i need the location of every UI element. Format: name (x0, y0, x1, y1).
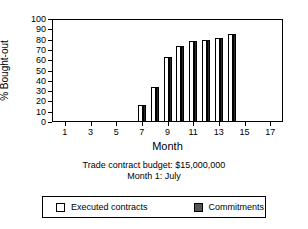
y-axis-tick-label: 20 (36, 97, 46, 106)
chart-figure: % Bought-out 0102030405060708090100 1357… (0, 0, 308, 229)
y-axis-tick-label: 40 (36, 76, 46, 85)
bar-group (202, 18, 212, 121)
bar-series-container (53, 20, 282, 121)
x-axis-tick-mark (116, 122, 117, 126)
bar-group (228, 18, 238, 121)
x-axis-tick-mark (193, 122, 194, 126)
bar-group (151, 18, 161, 121)
x-axis-tick-label: 7 (139, 127, 144, 137)
bar-commitments (233, 34, 236, 121)
x-axis-title: Month (52, 140, 283, 153)
chart-caption: Trade contract budget: $15,000,000 Month… (10, 160, 298, 182)
y-axis-tick-label: 100 (31, 15, 46, 24)
bar-commitments (156, 87, 159, 121)
x-axis-tick-label: 9 (165, 127, 170, 137)
legend-item-executed-contracts: Executed contracts (56, 202, 148, 212)
y-axis-tick-label: 30 (36, 87, 46, 96)
legend-label-commitments: Commitments (209, 202, 265, 212)
x-axis-tick-mark (245, 122, 246, 126)
x-axis-tick-mark (142, 122, 143, 126)
bar-group (215, 18, 225, 121)
y-axis-tick-label: 90 (36, 25, 46, 34)
x-axis-tick-mark (65, 122, 66, 126)
x-axis-tick-label: 13 (214, 127, 224, 137)
bar-commitments (220, 38, 223, 121)
y-axis-tick-label: 0 (41, 118, 46, 127)
bar-commitments (169, 57, 172, 121)
legend-swatch-executed-contracts (56, 203, 65, 212)
y-axis-tick-label: 50 (36, 66, 46, 75)
y-axis-tick-label: 10 (36, 107, 46, 116)
legend-item-commitments: Commitments (194, 202, 265, 212)
chart-legend: Executed contracts Commitments (42, 196, 266, 218)
x-axis-tick-mark (270, 122, 271, 126)
bar-group (189, 18, 199, 121)
y-axis: 0102030405060708090100 (0, 19, 52, 122)
caption-line-budget: Trade contract budget: $15,000,000 (10, 160, 298, 171)
x-axis-tick-label: 17 (265, 127, 275, 137)
caption-line-month: Month 1: July (10, 171, 298, 182)
x-axis-tick-mark (91, 122, 92, 126)
x-axis-tick-mark (168, 122, 169, 126)
x-axis-tick-label: 5 (114, 127, 119, 137)
x-axis-tick-label: 11 (188, 127, 197, 137)
y-axis-tick-label: 60 (36, 56, 46, 65)
plot-area (52, 19, 283, 122)
legend-swatch-commitments (194, 203, 203, 212)
bar-group (138, 18, 148, 121)
x-axis-tick-mark (219, 122, 220, 126)
bar-group (176, 18, 186, 121)
bar-group (164, 18, 174, 121)
bar-commitments (181, 46, 184, 121)
bar-commitments (194, 41, 197, 121)
y-axis-tick-label: 80 (36, 35, 46, 44)
x-axis-tick-label: 3 (88, 127, 93, 137)
x-axis-tick-label: 15 (239, 127, 249, 137)
legend-label-executed-contracts: Executed contracts (71, 202, 148, 212)
x-axis-tick-label: 1 (62, 127, 67, 137)
bar-commitments (207, 40, 210, 121)
bar-commitments (143, 105, 146, 121)
y-axis-tick-label: 70 (36, 45, 46, 54)
